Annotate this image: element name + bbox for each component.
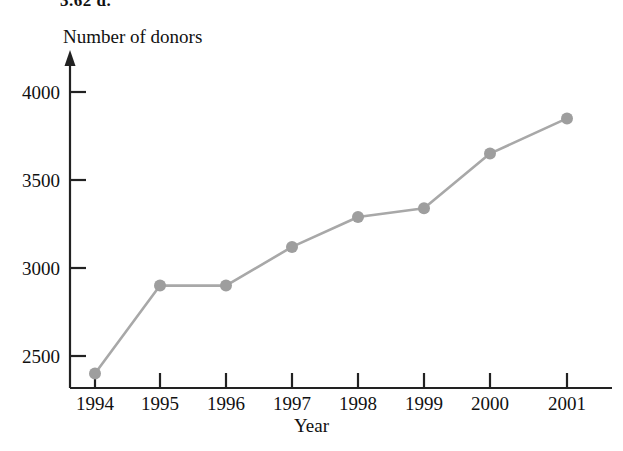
- x-tick-label-2000: 2000: [471, 393, 509, 414]
- data-point-1998: [352, 211, 364, 223]
- y-tick-label-3000: 3000: [22, 258, 60, 279]
- data-point-2000: [484, 148, 496, 160]
- data-point-1996: [220, 280, 232, 292]
- data-point-2001: [561, 112, 573, 124]
- x-tick-label-1996: 1996: [207, 393, 245, 414]
- x-tick-label-1999: 1999: [405, 393, 443, 414]
- data-point-1994: [89, 368, 101, 380]
- y-axis-ticks: 4000 3500 3000 2500: [22, 82, 86, 367]
- x-tick-label-2001: 2001: [548, 393, 586, 414]
- line-chart-plot: 4000 3500 3000 2500 1994 1995 1996 1997 …: [0, 0, 623, 451]
- x-tick-label-1998: 1998: [339, 393, 377, 414]
- data-line-series-donors: [95, 118, 567, 373]
- y-tick-label-2500: 2500: [22, 346, 60, 367]
- y-tick-label-3500: 3500: [22, 170, 60, 191]
- x-tick-label-1994: 1994: [76, 393, 115, 414]
- data-point-1999: [418, 202, 430, 214]
- x-axis-ticks: 1994 1995 1996 1997 1998 1999 2000 2001: [76, 373, 586, 414]
- y-axis-arrow-icon: [65, 50, 76, 66]
- chart-figure: 3.62 d. Number of donors 4000 3500 3000 …: [0, 0, 623, 451]
- x-tick-label-1995: 1995: [141, 393, 179, 414]
- y-tick-label-4000: 4000: [22, 82, 60, 103]
- data-point-markers: [89, 112, 573, 379]
- data-point-1997: [286, 241, 298, 253]
- x-axis-title: Year: [0, 415, 623, 437]
- y-axis: [65, 50, 76, 388]
- data-point-1995: [154, 280, 166, 292]
- x-tick-label-1997: 1997: [273, 393, 311, 414]
